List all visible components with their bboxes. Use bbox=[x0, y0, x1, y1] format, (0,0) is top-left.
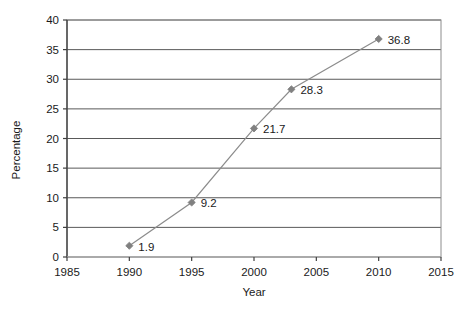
x-axis-ticks: 1985199019952000200520102015 bbox=[54, 257, 454, 278]
y-tick-label: 15 bbox=[46, 162, 59, 174]
x-tick-label: 2010 bbox=[366, 266, 392, 278]
x-axis-title: Year bbox=[242, 286, 265, 298]
data-point-label: 28.3 bbox=[300, 84, 322, 96]
chart-figure: 0510152025303540 19851990199520002005201… bbox=[0, 0, 473, 317]
y-tick-label: 35 bbox=[46, 44, 59, 56]
y-tick-label: 0 bbox=[53, 251, 59, 263]
x-tick-label: 2000 bbox=[241, 266, 267, 278]
line-chart: 0510152025303540 19851990199520002005201… bbox=[0, 0, 473, 317]
y-tick-label: 10 bbox=[46, 192, 59, 204]
y-axis-ticks: 0510152025303540 bbox=[46, 14, 67, 263]
data-point-label: 36.8 bbox=[388, 34, 410, 46]
y-tick-label: 40 bbox=[46, 14, 59, 26]
x-tick-label: 1990 bbox=[117, 266, 143, 278]
data-point-label: 9.2 bbox=[201, 197, 217, 209]
y-tick-label: 5 bbox=[53, 221, 59, 233]
x-tick-label: 2015 bbox=[428, 266, 454, 278]
x-tick-label: 1995 bbox=[179, 266, 205, 278]
data-point-label: 21.7 bbox=[263, 123, 285, 135]
y-tick-label: 25 bbox=[46, 103, 59, 115]
y-axis-title: Percentage bbox=[10, 121, 22, 180]
y-tick-label: 20 bbox=[46, 133, 59, 145]
y-tick-label: 30 bbox=[46, 73, 59, 85]
data-point-label: 1.9 bbox=[138, 241, 154, 253]
x-tick-label: 2005 bbox=[304, 266, 330, 278]
x-tick-label: 1985 bbox=[54, 266, 80, 278]
